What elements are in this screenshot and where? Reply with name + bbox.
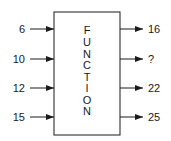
function-letter: T	[84, 71, 91, 83]
input-value: 12	[13, 82, 25, 94]
output-value: 16	[148, 23, 160, 35]
input-row: 6	[19, 23, 54, 35]
function-letter: N	[83, 105, 91, 117]
input-row: 10	[13, 53, 54, 65]
function-letter: U	[83, 36, 91, 48]
output-row: 22	[120, 82, 160, 94]
input-value: 6	[19, 23, 25, 35]
output-row: 16	[120, 23, 160, 35]
output-value: 25	[148, 111, 160, 123]
function-letter: O	[83, 94, 92, 106]
output-value: ?	[148, 53, 154, 65]
function-letter: C	[83, 59, 91, 71]
input-row: 15	[13, 111, 54, 123]
input-row: 12	[13, 82, 54, 94]
function-letter: I	[85, 82, 88, 94]
output-value: 22	[148, 82, 160, 94]
input-value: 15	[13, 111, 25, 123]
output-row: 25	[120, 111, 160, 123]
output-row: ?	[120, 53, 154, 65]
function-letter: F	[84, 24, 91, 36]
function-letter: N	[83, 48, 91, 60]
input-value: 10	[13, 53, 25, 65]
function-label: F U N C T I O N	[83, 24, 92, 117]
function-machine-diagram: F U N C T I O N 6 10 12 15 16 ? 22 25	[0, 0, 171, 141]
